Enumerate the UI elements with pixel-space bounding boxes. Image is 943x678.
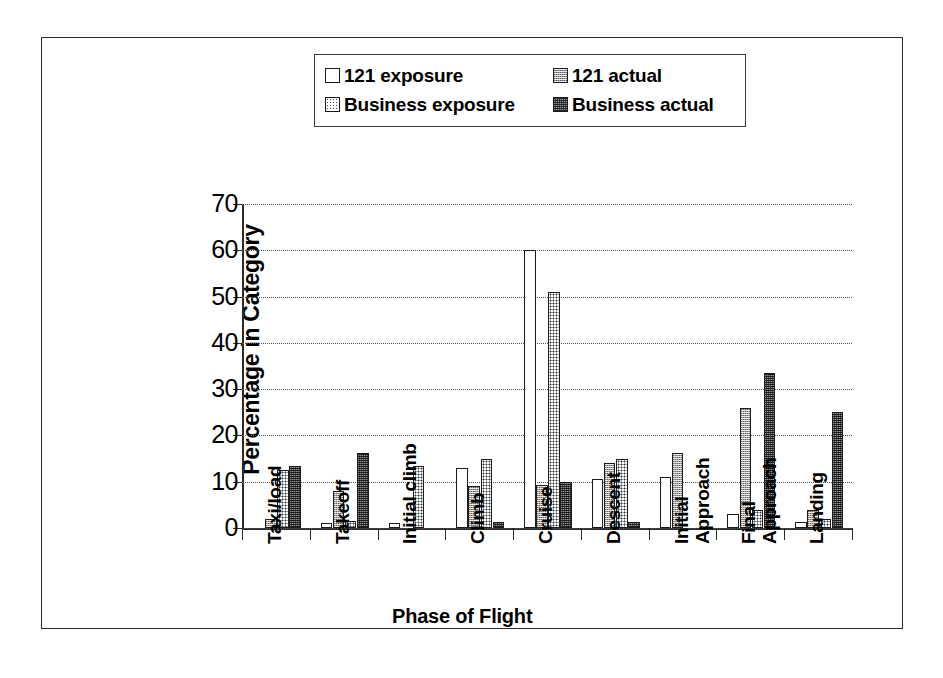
bar-group-3 — [445, 204, 513, 528]
category-label-6-line0: Initial — [671, 496, 693, 544]
category-label-2: Initial climb — [399, 443, 421, 544]
x-tick-2 — [445, 528, 446, 540]
y-tick-label-30: 30 — [118, 376, 238, 401]
y-tick-label-40: 40 — [118, 330, 238, 355]
category-label-8: Landing — [806, 472, 828, 544]
legend-label-121-actual: 121 actual — [572, 65, 662, 87]
x-tick-0 — [310, 528, 311, 540]
legend-label-business-exposure: Business exposure — [344, 94, 515, 116]
category-label-6-line1: Approach — [692, 458, 714, 544]
chart-legend: 121 exposure 121 actual Business exposur… — [314, 54, 746, 127]
legend-item-121-exposure: 121 exposure — [325, 65, 553, 87]
y-tick-label-60: 60 — [118, 237, 238, 262]
legend-swatch-dark-icon — [553, 97, 568, 112]
legend-label-business-actual: Business actual — [572, 94, 714, 116]
x-tick-7 — [784, 528, 785, 540]
legend-swatch-gray-icon — [553, 68, 568, 83]
x-tick-1 — [378, 528, 379, 540]
legend-swatch-white-icon — [325, 68, 340, 83]
bar-3-8 — [832, 412, 844, 528]
bar-group-4 — [513, 204, 581, 528]
bar-3-0 — [289, 466, 301, 528]
legend-item-business-exposure: Business exposure — [325, 94, 553, 116]
x-tick-5 — [649, 528, 650, 540]
bar-0-1 — [321, 523, 333, 528]
category-label-5: Descent — [603, 472, 625, 544]
bar-0-6 — [660, 477, 672, 528]
y-tick-label-50: 50 — [118, 284, 238, 309]
legend-item-121-actual: 121 actual — [553, 65, 662, 87]
y-tick-label-20: 20 — [118, 422, 238, 447]
legend-item-business-actual: Business actual — [553, 94, 714, 116]
legend-row-1: 121 exposure 121 actual — [325, 61, 735, 90]
x-tick-8 — [852, 528, 853, 540]
category-label-0: Taxi/load — [264, 466, 286, 544]
x-tick-3 — [513, 528, 514, 540]
bar-0-5 — [592, 479, 604, 528]
category-label-4: Cruise — [535, 487, 557, 544]
x-tick-6 — [716, 528, 717, 540]
x-axis-title: Phase of Flight — [392, 605, 532, 628]
x-tick-4 — [581, 528, 582, 540]
bar-0-4 — [524, 250, 536, 528]
y-tick-label-10: 10 — [118, 469, 238, 494]
bar-3-5 — [628, 522, 640, 528]
bar-0-8 — [795, 522, 807, 528]
chart-frame: 121 exposure 121 actual Business exposur… — [41, 37, 903, 629]
x-tick-origin — [242, 528, 243, 540]
category-label-7-line0: Final — [738, 501, 760, 544]
y-tick-label-0: 0 — [118, 515, 238, 540]
category-label-1: Takeoff — [332, 480, 354, 544]
category-label-7-line1: Approach — [759, 458, 781, 544]
legend-swatch-dotted-icon — [325, 97, 340, 112]
bar-3-1 — [357, 453, 369, 528]
legend-label-121-exposure: 121 exposure — [344, 65, 463, 87]
bar-3-3 — [493, 522, 505, 528]
bar-3-4 — [560, 482, 572, 528]
y-tick-label-70: 70 — [118, 191, 238, 216]
category-label-3: Climb — [467, 493, 489, 544]
legend-row-2: Business exposure Business actual — [325, 90, 735, 119]
